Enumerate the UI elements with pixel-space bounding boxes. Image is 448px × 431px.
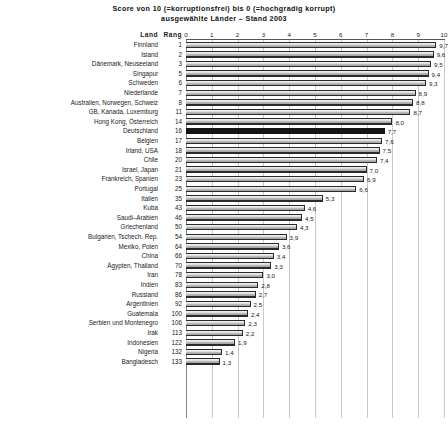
chart-row: Finnland19,7 [0,40,448,50]
row-rank-label: 113 [160,328,182,338]
bar-track: 9,7 [186,42,444,48]
bar [186,138,382,144]
row-country-label: Island [0,50,158,60]
bar [186,51,434,57]
row-rank-label: 25 [160,184,182,194]
bar [186,262,271,268]
chart-title: Score von 10 (=korruptionsfrei) bis 0 (=… [0,4,448,14]
row-country-label: Belgien [0,136,158,146]
bar [186,147,380,153]
row-rank-label: 1 [160,40,182,50]
bar [186,224,297,230]
bar-value-label: 7,4 [380,158,389,164]
bar-track: 8,8 [186,99,444,105]
row-country-label: Israel, Japan [0,165,158,175]
row-country-label: Argentinien [0,299,158,309]
chart-row: Kuba434,6 [0,203,448,213]
bar-track: 3,0 [186,272,444,278]
bar-track: 3,9 [186,234,444,240]
bar-track: 2,3 [186,320,444,326]
bar [186,109,410,115]
chart-row: Griechenland504,3 [0,222,448,232]
bar [186,330,243,336]
bar-value-label: 3,4 [277,254,286,260]
row-country-label: Chile [0,155,158,165]
chart-title-block: Score von 10 (=korruptionsfrei) bis 0 (=… [0,4,448,23]
bar-value-label: 9,7 [439,43,448,49]
bar-value-label: 8,9 [419,91,428,97]
chart-row: Russland862,7 [0,290,448,300]
bar-track: 3,3 [186,262,444,268]
bar-value-label: 2,4 [251,312,260,318]
bar-value-label: 2,8 [261,283,270,289]
chart-row: Irland, USA187,5 [0,146,448,156]
chart-row: Niederlande78,9 [0,88,448,98]
row-country-label: Niederlande [0,88,158,98]
row-country-label: Deutschland [0,126,158,136]
bar [186,253,274,259]
bar-track: 3,6 [186,243,444,249]
bar [186,349,222,355]
row-rank-label: 5 [160,69,182,79]
bar-value-label: 4,5 [305,216,314,222]
row-country-label: Dänemark, Neuseeland [0,59,158,69]
bar-track: 5,3 [186,195,444,201]
row-country-label: Saudi–Arabien [0,213,158,223]
bar [186,176,364,182]
row-country-label: Finnland [0,40,158,50]
bar [186,118,392,124]
row-country-label: Griechenland [0,222,158,232]
row-country-label: Serbien und Montenegro [0,318,158,328]
row-country-label: Portugal [0,184,158,194]
chart-row: Dänemark, Neuseeland39,5 [0,59,448,69]
bar-track: 9,6 [186,51,444,57]
chart-row: Indonesien1221,9 [0,338,448,348]
chart-row: Hong Kong, Österreich148,0 [0,117,448,127]
row-rank-label: 92 [160,299,182,309]
row-country-label: Singapur [0,69,158,79]
bar-track: 8,9 [186,90,444,96]
bar-track: 9,3 [186,80,444,86]
bar [186,42,436,48]
bar [186,272,263,278]
bar-value-label: 1,3 [223,360,232,366]
bar-value-label: 2,2 [246,331,255,337]
row-country-label: Bangladesch [0,357,158,367]
bar-track: 2,8 [186,282,444,288]
x-tick-label-1: 1 [210,31,213,38]
bar [186,61,431,67]
chart-row: Ägypten, Thailand703,3 [0,261,448,271]
row-country-label: Russland [0,290,158,300]
row-country-label: Guatemala [0,309,158,319]
bar-value-label: 9,6 [437,52,446,58]
chart-row: Schweden69,3 [0,78,448,88]
chart-row: Mexiko, Polen643,6 [0,242,448,252]
bar-track: 8,7 [186,109,444,115]
chart-row: Israel, Japan217,0 [0,165,448,175]
bar-value-label: 2,5 [254,302,263,308]
bar [186,128,385,134]
chart-row: Argentinien922,5 [0,299,448,309]
chart-row: Frankreich, Spanien236,9 [0,174,448,184]
bar-track: 6,9 [186,176,444,182]
bar-track: 1,3 [186,358,444,364]
bar [186,310,248,316]
chart-row: Belgien177,6 [0,136,448,146]
row-rank-label: 86 [160,290,182,300]
row-country-label: Indonesien [0,338,158,348]
bar-track: 1,4 [186,349,444,355]
row-rank-label: 66 [160,251,182,261]
row-rank-label: 3 [160,59,182,69]
row-rank-label: 78 [160,270,182,280]
row-country-label: Bulgarien, Tschech. Rep. [0,232,158,242]
row-rank-label: 2 [160,50,182,60]
row-country-label: Schweden [0,78,158,88]
bar [186,282,258,288]
x-tick-label-8: 8 [391,31,394,38]
bar-track: 7,7 [186,128,444,134]
bar [186,291,256,297]
bar-track: 2,5 [186,301,444,307]
chart-row: Iran783,0 [0,270,448,280]
bar [186,320,245,326]
chart-row: Irak1132,2 [0,328,448,338]
